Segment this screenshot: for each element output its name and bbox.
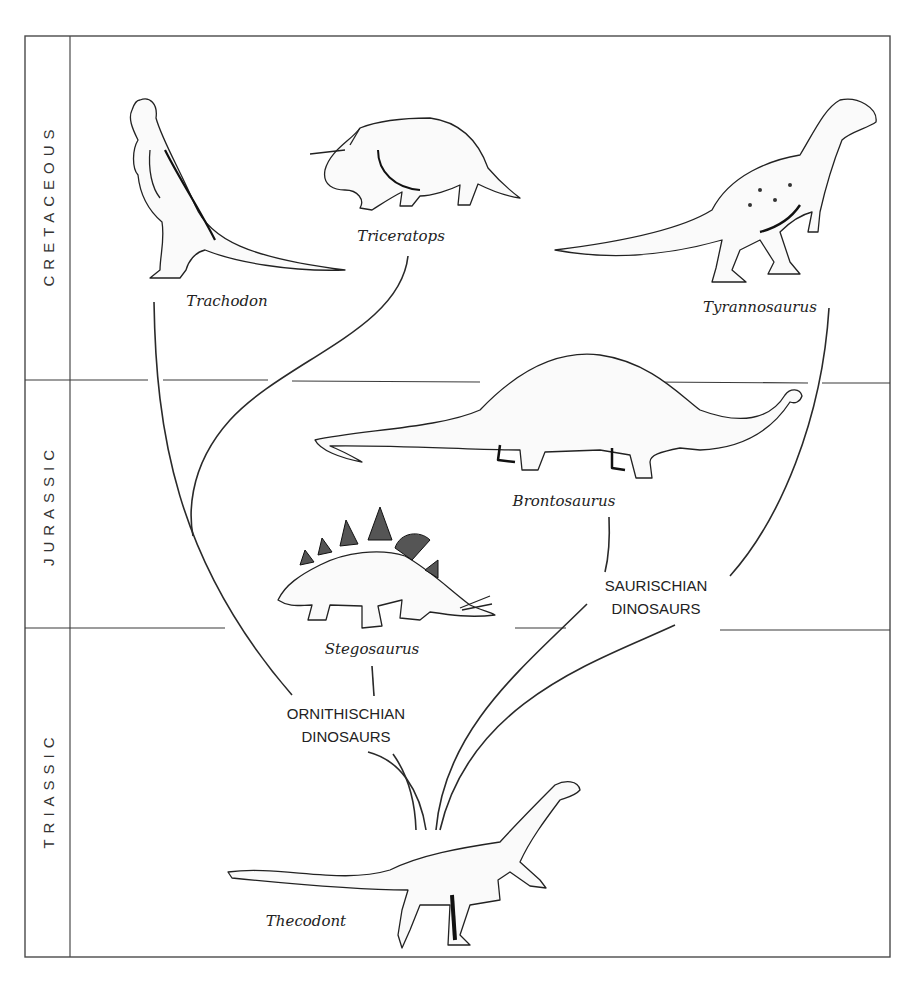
brontosaurus-illustration <box>315 354 802 478</box>
group-label-ornithischian: ORNITHISCHIAN DINOSAURS <box>287 702 405 748</box>
branch-tyrannosaurus <box>730 308 829 576</box>
branch-stegosaurus <box>372 666 374 696</box>
species-label-stegosaurus: Stegosaurus <box>325 640 420 658</box>
dinosaur-evolution-diagram: CRETACEOUS JURASSIC TRIASSIC Trachodon T… <box>0 0 920 986</box>
branch-ornithischian-base-a <box>368 752 426 830</box>
group-label-saurischian: SAURISCHIAN DINOSAURS <box>605 574 708 620</box>
species-label-triceratops: Triceratops <box>357 227 445 245</box>
branch-trachodon <box>154 302 292 695</box>
group-label-saurischian-line1: SAURISCHIAN <box>605 574 708 597</box>
group-label-ornithischian-line2: DINOSAURS <box>287 725 405 748</box>
period-label-jurassic: JURASSIC <box>40 444 57 566</box>
branch-brontosaurus <box>605 517 609 572</box>
branch-ornithischian-base-b <box>393 754 416 830</box>
species-label-brontosaurus: Brontosaurus <box>513 492 616 510</box>
diagram-lines <box>0 0 920 986</box>
triceratops-illustration <box>310 118 520 210</box>
tyrannosaurus-illustration <box>555 99 876 282</box>
stegosaurus-illustration <box>278 507 495 628</box>
species-label-tyrannosaurus: Tyrannosaurus <box>703 298 817 316</box>
trachodon-illustration <box>130 99 345 278</box>
branch-lines <box>154 256 829 830</box>
group-label-saurischian-line2: DINOSAURS <box>605 597 708 620</box>
period-label-cretaceous: CRETACEOUS <box>40 123 57 286</box>
species-label-trachodon: Trachodon <box>186 292 268 310</box>
group-label-ornithischian-line1: ORNITHISCHIAN <box>287 702 405 725</box>
species-label-thecodont: Thecodont <box>266 912 346 930</box>
period-label-triassic: TRIASSIC <box>40 731 57 848</box>
